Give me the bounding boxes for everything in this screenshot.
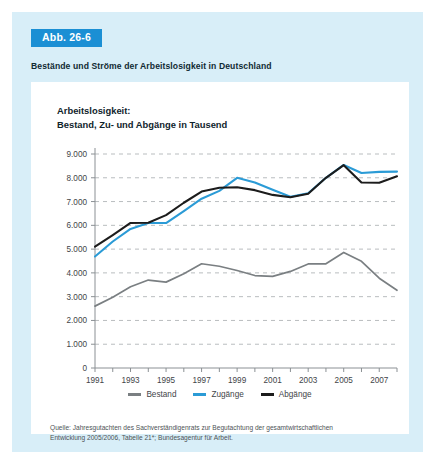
- x-tick-label: 2003: [299, 376, 318, 385]
- legend-item-bestand[interactable]: Bestand: [128, 390, 176, 399]
- figure-badge: Abb. 26-6: [31, 29, 102, 47]
- y-tick-label: 0: [82, 364, 87, 373]
- legend-label: Abgänge: [279, 390, 312, 399]
- y-tick-label: 3.000: [67, 293, 88, 302]
- chart-legend: BestandZugängeAbgänge: [31, 390, 409, 399]
- source-line-1: Quelle: Jahresgutachten des Sachverständ…: [50, 423, 398, 433]
- line-chart-svg: 9.0008.0007.0006.0005.0004.0003.0002.000…: [31, 82, 409, 434]
- legend-label: Zugänge: [211, 390, 243, 399]
- source-note: Quelle: Jahresgutachten des Sachverständ…: [50, 423, 398, 443]
- source-line-2: Entwicklung 2005/2006, Tabelle 21*; Bund…: [50, 433, 398, 443]
- y-tick-label: 2.000: [67, 316, 88, 325]
- x-tick-label: 2005: [335, 376, 354, 385]
- x-tick-label: 1993: [121, 376, 140, 385]
- x-tick-label: 1999: [228, 376, 247, 385]
- y-tick-label: 4.000: [67, 269, 88, 278]
- chart-panel: Arbeitslosigkeit: Bestand, Zu- und Abgän…: [31, 82, 409, 434]
- series-line-bestand: [95, 252, 397, 306]
- x-tick-label: 1991: [86, 376, 105, 385]
- legend-item-abgänge[interactable]: Abgänge: [261, 390, 312, 399]
- x-tick-label: 1997: [192, 376, 211, 385]
- y-tick-label: 1.000: [67, 340, 88, 349]
- legend-item-zugänge[interactable]: Zugänge: [193, 390, 243, 399]
- gridlines: [95, 154, 397, 344]
- figure-subtitle: Bestände und Ströme der Arbeitslosigkeit…: [31, 61, 272, 71]
- y-tick-label: 5.000: [67, 245, 88, 254]
- y-tick-label: 7.000: [67, 198, 88, 207]
- legend-swatch-icon: [193, 393, 206, 395]
- legend-label: Bestand: [146, 390, 176, 399]
- legend-swatch-icon: [261, 393, 274, 395]
- x-tick-label: 2007: [370, 376, 389, 385]
- x-axis-ticks: [95, 368, 397, 372]
- y-tick-label: 8.000: [67, 174, 88, 183]
- y-axis-ticks: [91, 154, 95, 368]
- y-tick-label: 9.000: [67, 150, 88, 159]
- y-axis-tick-labels: 9.0008.0007.0006.0005.0004.0003.0002.000…: [67, 150, 88, 373]
- x-tick-label: 1995: [157, 376, 176, 385]
- figure-card: Abb. 26-6 Bestände und Ströme der Arbeit…: [12, 12, 423, 452]
- legend-swatch-icon: [128, 393, 141, 395]
- data-series: [95, 165, 397, 306]
- y-tick-label: 6.000: [67, 221, 88, 230]
- x-tick-label: 2001: [264, 376, 283, 385]
- series-line-zugänge: [95, 165, 397, 257]
- x-axis-tick-labels: 199119931995199719992001200320052007: [86, 376, 389, 385]
- plot-area: 9.0008.0007.0006.0005.0004.0003.0002.000…: [31, 82, 409, 434]
